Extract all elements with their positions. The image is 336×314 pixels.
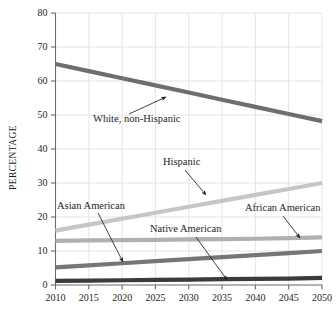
y-axis-title: PERCENTAGE bbox=[8, 125, 18, 190]
x-axis-tick-labels: 201020152020202520302035204020452050 bbox=[46, 292, 333, 303]
y-axis-tick-label: 0 bbox=[43, 279, 48, 290]
population-projection-line-chart: 01020304050607080 2010201520202025203020… bbox=[0, 0, 336, 314]
x-axis-tick-label: 2020 bbox=[112, 292, 132, 303]
annotation-label-white-non-hispanic: White, non-Hispanic bbox=[93, 113, 181, 124]
y-axis-tick-label: 20 bbox=[38, 211, 48, 222]
annotation-label-african-american: African American bbox=[245, 202, 321, 213]
y-axis-tick-label: 50 bbox=[38, 109, 48, 120]
y-axis-tick-label: 70 bbox=[38, 41, 48, 52]
x-axis-tick-label: 2040 bbox=[245, 292, 265, 303]
x-axis-tick-label: 2045 bbox=[279, 292, 299, 303]
annotation-label-asian-american: Asian American bbox=[57, 200, 126, 211]
x-axis-tick-label: 2010 bbox=[46, 292, 66, 303]
y-axis-tick-label: 60 bbox=[38, 75, 48, 86]
x-axis-tick-label: 2025 bbox=[145, 292, 165, 303]
annotation-label-hispanic: Hispanic bbox=[163, 156, 201, 167]
annotation-label-native-american: Native American bbox=[150, 223, 222, 234]
chart-canvas: 01020304050607080 2010201520202025203020… bbox=[0, 0, 336, 314]
y-axis-tick-labels: 01020304050607080 bbox=[38, 7, 48, 290]
y-axis-tick-label: 30 bbox=[38, 177, 48, 188]
y-axis-tick-label: 80 bbox=[38, 7, 48, 18]
x-axis-tick-label: 2050 bbox=[312, 292, 332, 303]
x-axis-tick-label: 2035 bbox=[212, 292, 232, 303]
x-axis-tick-label: 2030 bbox=[179, 292, 199, 303]
y-axis-tick-label: 40 bbox=[38, 143, 48, 154]
x-axis-tick-label: 2015 bbox=[79, 292, 99, 303]
y-axis-tick-label: 10 bbox=[38, 245, 48, 256]
